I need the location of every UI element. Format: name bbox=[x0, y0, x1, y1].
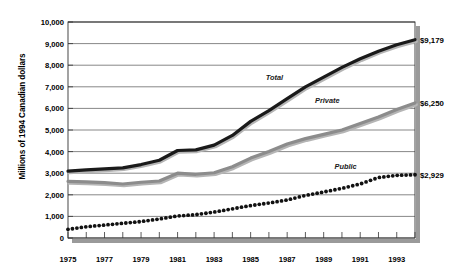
series-end-value-labels: $9,179$6,250$2,929 bbox=[0, 0, 451, 280]
chart-container: Millions of 1994 Canadian dollars 01,000… bbox=[0, 0, 451, 280]
end-value-label-private: $6,250 bbox=[420, 99, 444, 108]
end-value-label-public: $2,929 bbox=[420, 170, 444, 179]
end-value-label-total: $9,179 bbox=[420, 35, 444, 44]
